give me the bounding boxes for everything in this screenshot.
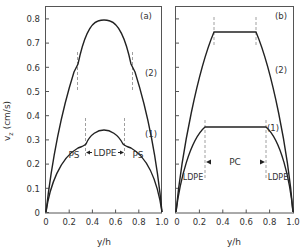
svg-text:0.6: 0.6 bbox=[109, 217, 123, 227]
region-label-ldpe-center: LDPE bbox=[93, 148, 116, 158]
panel-a-label: (a) bbox=[140, 11, 152, 21]
panel-b-x-axis bbox=[199, 210, 269, 214]
panel-a-y-axis bbox=[46, 19, 50, 213]
panel-a-x-label: y/h bbox=[97, 237, 111, 247]
svg-text:0.6: 0.6 bbox=[26, 63, 40, 73]
panel-a-curve-2-label: (2) bbox=[145, 68, 157, 78]
panel-a-x-axis bbox=[69, 210, 139, 214]
panel-a-curve-2 bbox=[46, 20, 162, 212]
svg-text:1.0: 1.0 bbox=[286, 217, 300, 227]
svg-text:0: 0 bbox=[35, 208, 40, 218]
panel-b-x-label: y/h bbox=[227, 237, 241, 247]
svg-text:1.0: 1.0 bbox=[155, 217, 169, 227]
svg-text:0.7: 0.7 bbox=[26, 38, 40, 48]
panel-b-label: (b) bbox=[275, 11, 287, 21]
svg-text:0.2: 0.2 bbox=[62, 217, 76, 227]
svg-text:0.8: 0.8 bbox=[132, 217, 146, 227]
panel-b-curve-1-label: (1) bbox=[267, 123, 279, 133]
panel-b-y-axis bbox=[176, 19, 180, 188]
svg-text:0.8: 0.8 bbox=[263, 217, 277, 227]
panel-b-x-tick-labels: 0 0.2 0.4 0.6 0.8 1.0 bbox=[174, 217, 299, 227]
svg-text:0: 0 bbox=[174, 217, 179, 227]
svg-text:0.3: 0.3 bbox=[26, 135, 40, 145]
region-label-ldpe-left: LDPE bbox=[183, 173, 204, 182]
svg-text:0.4: 0.4 bbox=[216, 217, 230, 227]
svg-text:0.2: 0.2 bbox=[193, 217, 207, 227]
figure: 0 0.1 0.2 0.3 0.4 0.5 0.6 0.7 0.8 0 0.2 … bbox=[0, 0, 300, 251]
panel-a-interface-lines bbox=[78, 52, 133, 158]
panel-b-curve-2-label: (2) bbox=[275, 65, 287, 75]
svg-text:0.4: 0.4 bbox=[26, 111, 40, 121]
svg-text:0.6: 0.6 bbox=[239, 217, 253, 227]
svg-text:vz(cm/s): vz(cm/s) bbox=[2, 101, 15, 141]
svg-text:0.4: 0.4 bbox=[86, 217, 100, 227]
region-label-pc-center: PC bbox=[229, 157, 241, 167]
panel-b-interface-lines bbox=[205, 17, 266, 180]
svg-text:0.1: 0.1 bbox=[26, 184, 40, 194]
region-label-ps-left: PS bbox=[68, 150, 79, 160]
panel-a-curve-1 bbox=[46, 130, 162, 212]
panel-a-y-tick-labels: 0 0.1 0.2 0.3 0.4 0.5 0.6 0.7 0.8 bbox=[26, 14, 40, 218]
y-axis-label: vz(cm/s) bbox=[2, 101, 15, 141]
panel-b-curve-2 bbox=[176, 32, 293, 212]
svg-text:0.2: 0.2 bbox=[26, 159, 40, 169]
panel-b-curve-1 bbox=[176, 127, 293, 212]
svg-text:0.5: 0.5 bbox=[26, 87, 40, 97]
region-label-ps-right: PS bbox=[132, 150, 143, 160]
panel-b-frame bbox=[176, 7, 294, 214]
panel-a-x-tick-labels: 0 0.2 0.4 0.6 0.8 1.0 bbox=[43, 217, 168, 227]
svg-text:0.8: 0.8 bbox=[26, 14, 40, 24]
region-label-ldpe-right: LDPE bbox=[268, 173, 289, 182]
panel-a-curve-1-label: (1) bbox=[145, 129, 157, 139]
svg-text:0: 0 bbox=[43, 217, 48, 227]
